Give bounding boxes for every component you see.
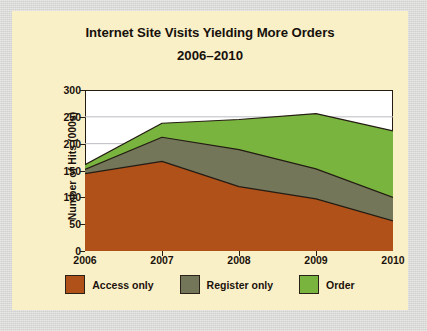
y-axis-tick-label: 300	[51, 84, 81, 96]
chart-legend: Access onlyRegister onlyOrder	[12, 275, 408, 294]
legend-swatch	[65, 275, 85, 294]
plot-area: Number of Hits (000s) 300250200150100500…	[76, 79, 396, 252]
legend-item[interactable]: Order	[299, 275, 355, 294]
chart-title: Internet Site Visits Yielding More Order…	[12, 25, 408, 64]
x-axis-tick-label: 2010	[369, 254, 417, 266]
chart-title-line-1: Internet Site Visits Yielding More Order…	[12, 25, 408, 41]
stacked-area-plot	[85, 90, 393, 251]
legend-label: Register only	[207, 279, 274, 291]
x-axis-tick-label: 2006	[61, 254, 109, 266]
x-axis-tick-label: 2009	[292, 254, 340, 266]
legend-label: Access only	[92, 279, 153, 291]
legend-item[interactable]: Register only	[180, 275, 274, 294]
y-axis-tick-label: 250	[51, 111, 81, 123]
figure-card: Internet Site Visits Yielding More Order…	[12, 11, 408, 310]
legend-swatch	[180, 275, 200, 294]
y-axis-tick-mark	[80, 251, 85, 252]
x-axis-tick-label: 2008	[215, 254, 263, 266]
legend-swatch	[299, 275, 319, 294]
y-axis-tick-label: 200	[51, 138, 81, 150]
legend-item[interactable]: Access only	[65, 275, 153, 294]
legend-label: Order	[326, 279, 355, 291]
chart-title-line-2: 2006–2010	[12, 48, 408, 64]
y-axis-tick-label: 50	[51, 218, 81, 230]
y-axis-tick-label: 150	[51, 165, 81, 177]
y-axis-tick-label: 100	[51, 191, 81, 203]
x-axis-tick-label: 2007	[138, 254, 186, 266]
